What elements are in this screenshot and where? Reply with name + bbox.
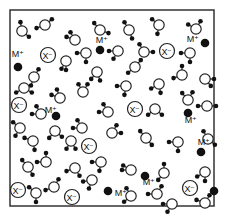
water-molecule bbox=[120, 163, 137, 175]
water-molecule bbox=[64, 136, 78, 151]
hydrogen-atom bbox=[156, 178, 161, 183]
water-molecule bbox=[35, 151, 51, 168]
hydrogen-atom bbox=[89, 77, 94, 82]
oxygen-atom bbox=[173, 137, 183, 147]
oxygen-atom bbox=[95, 25, 105, 35]
water-molecule bbox=[156, 162, 169, 182]
hydrogen-atom bbox=[196, 104, 201, 109]
oxygen-atom bbox=[81, 48, 91, 58]
water-molecule bbox=[107, 123, 123, 138]
cation-m: M⁺ bbox=[104, 187, 128, 198]
oxygen-atom bbox=[78, 87, 88, 97]
hydrogen-atom bbox=[36, 67, 41, 72]
water-molecule bbox=[71, 118, 88, 133]
water-molecule bbox=[138, 129, 154, 147]
water-molecule bbox=[171, 64, 187, 81]
oxygen-atom bbox=[28, 136, 38, 146]
water-molecule bbox=[64, 30, 80, 45]
hydrogen-atom bbox=[29, 90, 34, 95]
hydrogen-atom bbox=[34, 26, 39, 31]
water-molecule bbox=[22, 136, 38, 153]
oxygen-atom bbox=[31, 188, 41, 198]
hydrogen-atom bbox=[120, 168, 125, 173]
water-molecule bbox=[195, 167, 210, 184]
hydrogen-atom bbox=[64, 68, 69, 73]
hydrogen-atom bbox=[47, 136, 52, 141]
oxygen-atom bbox=[154, 79, 164, 89]
oxygen-atom bbox=[183, 95, 193, 105]
hydrogen-atom bbox=[44, 151, 49, 156]
hydrogen-atom bbox=[64, 146, 69, 151]
hydrogen-atom bbox=[60, 134, 65, 139]
anion-x: X⁻ bbox=[160, 44, 175, 59]
water-molecule bbox=[146, 104, 164, 117]
oxygen-atom bbox=[96, 157, 106, 167]
oxygen-atom bbox=[41, 157, 51, 167]
hydrogen-atom bbox=[137, 42, 142, 47]
water-molecule bbox=[150, 17, 164, 36]
water-molecule bbox=[29, 67, 41, 88]
anion-label: X⁻ bbox=[161, 47, 172, 57]
water-molecule bbox=[17, 20, 31, 39]
hydrogen-atom bbox=[119, 131, 124, 136]
hydrogen-atom bbox=[162, 162, 167, 167]
hydrogen-atom bbox=[30, 172, 35, 177]
hydrogen-atom bbox=[149, 86, 154, 91]
cation-m: M⁺ bbox=[187, 34, 210, 47]
hydrogen-atom bbox=[59, 66, 64, 71]
hydrogen-atom bbox=[75, 51, 80, 56]
hydrogen-atom bbox=[150, 17, 155, 22]
hydrogen-atom bbox=[179, 51, 184, 56]
water-molecule bbox=[115, 81, 132, 97]
water-molecule bbox=[76, 82, 90, 97]
cation-label: M⁺ bbox=[115, 188, 128, 198]
hydrogen-atom bbox=[27, 185, 32, 190]
hydrogen-atom bbox=[64, 169, 69, 174]
anion-x: X⁻ bbox=[183, 181, 198, 196]
hydrogen-atom bbox=[27, 34, 32, 39]
anion-label: X⁻ bbox=[13, 101, 24, 111]
hydrogen-atom bbox=[77, 173, 82, 178]
oxygen-atom bbox=[55, 93, 65, 103]
oxygen-atom bbox=[23, 162, 33, 172]
anion-x: X⁻ bbox=[41, 48, 56, 63]
water-molecule bbox=[11, 120, 25, 138]
cation-label: M⁺ bbox=[198, 137, 211, 147]
hydrogen-atom bbox=[167, 140, 172, 145]
solution-diagram: X⁻X⁻X⁻X⁻X⁻X⁻X⁻X⁻ M⁺M⁺M⁺M⁺M⁺M⁺M⁺M⁺ bbox=[0, 0, 225, 216]
hydrogen-atom bbox=[90, 160, 95, 165]
anion-label: X⁻ bbox=[42, 51, 53, 61]
hydrogen-atom bbox=[149, 143, 154, 148]
oxygen-atom bbox=[130, 62, 140, 72]
oxygen-atom bbox=[150, 104, 160, 114]
hydrogen-atom bbox=[146, 192, 151, 197]
cation-label: M⁺ bbox=[143, 177, 156, 187]
hydrogen-atom bbox=[201, 129, 206, 134]
oxygen-atom bbox=[66, 136, 76, 146]
anion-label: X⁻ bbox=[66, 193, 77, 203]
hydrogen-atom bbox=[43, 188, 48, 193]
hydrogen-atom bbox=[84, 60, 89, 65]
oxygen-atom bbox=[200, 167, 210, 177]
anion-x: X⁻ bbox=[128, 102, 143, 117]
oxygen-atom bbox=[29, 72, 39, 82]
hydrogen-atom bbox=[155, 32, 160, 37]
hydrogen-atom bbox=[122, 93, 127, 98]
anion-label: X⁻ bbox=[184, 184, 195, 194]
cation-label: M⁺ bbox=[96, 35, 109, 45]
water-molecule bbox=[81, 175, 97, 191]
hydrogen-atom bbox=[68, 30, 73, 35]
anion-x: X⁻ bbox=[11, 183, 26, 198]
hydrogen-atom bbox=[138, 58, 143, 63]
hydrogen-atom bbox=[180, 91, 185, 96]
oxygen-atom bbox=[87, 175, 97, 185]
cation-m: M⁺ bbox=[184, 109, 198, 125]
hydrogen-atom bbox=[22, 136, 27, 141]
hydrogen-atom bbox=[158, 91, 163, 96]
hydrogen-atom bbox=[75, 118, 80, 123]
hydrogen-atom bbox=[49, 93, 54, 98]
hydrogen-atom bbox=[203, 179, 208, 184]
hydrogen-atom bbox=[121, 163, 126, 168]
water-molecule bbox=[149, 79, 164, 95]
hydrogen-atom bbox=[35, 160, 40, 165]
